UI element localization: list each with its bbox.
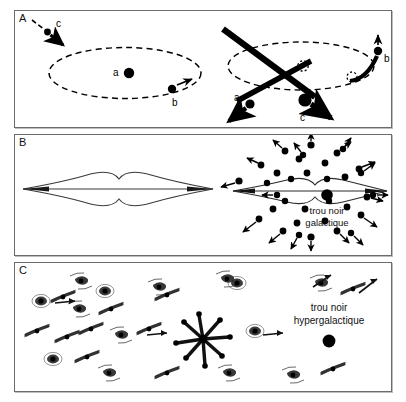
interaction-bar-primary — [223, 29, 315, 97]
central-mass-a-left: a — [113, 67, 134, 78]
hypergalactic-caption-line-1: trou noir — [311, 302, 348, 313]
panel-c-graphic: trou noir hypergalactique — [15, 263, 393, 393]
marker-label-c-left: c — [56, 18, 61, 29]
intruder-body-c-right: c — [298, 93, 331, 123]
figure-root: A c — [0, 0, 406, 402]
hypergalactic-black-hole-dot — [323, 335, 336, 348]
orbit-direction-arrow-left — [177, 79, 192, 85]
galactic-black-hole-region: trou noir galactique — [15, 135, 393, 257]
panel-c: C — [14, 262, 392, 392]
panel-b: B — [14, 134, 392, 256]
orbiting-body-b-left: b — [168, 85, 178, 108]
incoming-body-c-left: c — [32, 18, 63, 45]
marker-label-b-right: b — [384, 53, 390, 64]
panel-a: A c — [14, 10, 392, 128]
marker-label-b-left: b — [172, 97, 178, 108]
marker-label-c-right: c — [300, 112, 305, 123]
hypergalactic-caption-line-2: hypergalactique — [294, 315, 365, 326]
marker-label-a-left: a — [113, 67, 119, 78]
galaxy-field — [24, 271, 366, 383]
escaping-body-b-right: b — [350, 35, 390, 81]
marker-label-a-right: a — [234, 92, 240, 103]
galactic-caption-line-1: trou noir — [310, 205, 345, 216]
galactic-caption-line-2: galactique — [305, 217, 348, 228]
hypergalactic-black-hole-region: trou noir hypergalactique — [294, 302, 365, 347]
hypergalactic-burst-cluster — [173, 311, 233, 369]
galactic-black-hole-dot — [321, 189, 333, 201]
panel-a-graphic: c a b — [15, 11, 393, 129]
